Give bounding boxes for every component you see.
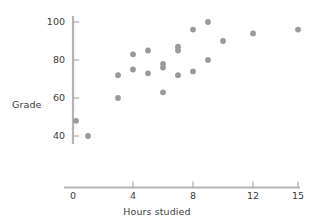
- data-point: [190, 69, 196, 75]
- x-tick-label: 8: [190, 190, 196, 201]
- data-point: [175, 48, 181, 54]
- x-tick-label: 4: [130, 190, 136, 201]
- data-point: [85, 133, 91, 139]
- data-point: [295, 27, 301, 33]
- data-point: [205, 19, 211, 25]
- plot-canvas: 406080100 0481215: [0, 0, 320, 222]
- y-tick-label: 40: [53, 130, 65, 141]
- y-tick-label: 60: [53, 92, 65, 103]
- data-point: [205, 57, 211, 63]
- x-tick-label: 15: [292, 190, 304, 201]
- y-tick-label: 80: [53, 54, 65, 65]
- y-axis-title: Grade: [12, 99, 41, 110]
- data-point: [250, 31, 256, 37]
- y-axis-tick-labels: 406080100: [47, 16, 65, 141]
- data-point: [115, 95, 121, 101]
- data-point: [145, 48, 151, 54]
- x-tick-label: 12: [247, 190, 259, 201]
- data-point: [130, 67, 136, 73]
- data-point-markers: [73, 19, 301, 139]
- data-point: [73, 118, 79, 124]
- data-point: [130, 51, 136, 57]
- scatter-plot-figure: 406080100 0481215 Grade Hours studied: [0, 0, 320, 222]
- data-point: [175, 72, 181, 78]
- x-axis-title: Hours studied: [123, 206, 190, 217]
- x-axis-tick-labels: 0481215: [70, 190, 304, 201]
- data-point: [190, 27, 196, 33]
- data-point: [220, 38, 226, 44]
- y-tick-label: 100: [47, 16, 65, 27]
- data-point: [145, 70, 151, 76]
- data-point: [115, 72, 121, 78]
- data-point: [160, 65, 166, 71]
- x-tick-label: 0: [70, 190, 76, 201]
- data-point: [160, 89, 166, 95]
